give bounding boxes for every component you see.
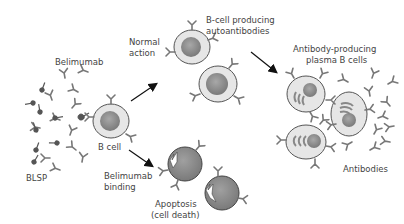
- b-cell-label: B cell: [98, 142, 121, 152]
- belimumab-label: Belimumab: [55, 57, 103, 67]
- b-cell: [78, 95, 136, 142]
- normal-action-label-2: action: [129, 48, 155, 58]
- binding-label-1: Belimumab: [104, 171, 152, 181]
- normal-action-label-1: Normal: [129, 37, 160, 47]
- apoptosis-label-2: (cell death): [151, 210, 200, 220]
- producing-label-2: autoantibodies: [206, 26, 269, 36]
- producing-label-1: B-cell producing: [206, 15, 275, 25]
- binding-label-2: binding: [104, 182, 136, 192]
- normal-action-arrow: [131, 84, 156, 101]
- binding-arrow: [129, 150, 152, 166]
- plasma-label-1: Antibody-producing: [293, 44, 376, 54]
- antibodies-label: Antibodies: [343, 164, 388, 174]
- apoptosis-label-1: Apoptosis: [155, 199, 197, 209]
- plasma-b-cells: [277, 68, 375, 168]
- blsp-label: BLSP: [26, 173, 47, 183]
- plasma-label-2: plasma B cells: [306, 55, 367, 65]
- plasma-arrow: [251, 52, 276, 72]
- belimumab-mechanism-diagram: [0, 0, 404, 224]
